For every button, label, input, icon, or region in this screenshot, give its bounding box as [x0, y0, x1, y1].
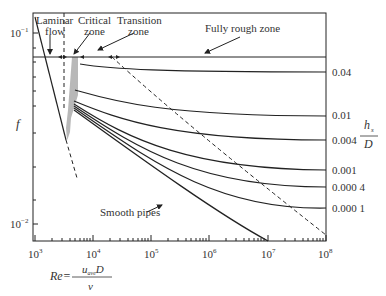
roughness-ratio-label: h s D [360, 118, 378, 151]
label-0.01: 0.01 [332, 109, 351, 121]
annotation-transition-2: zone [128, 25, 149, 37]
svg-text:s: s [371, 126, 374, 134]
curve-0.01 [75, 90, 326, 116]
annotation-smooth-pipes: Smooth pipes [100, 206, 160, 218]
annotation-critical-2: zone [84, 25, 105, 37]
x-tick-1e6: 106 [202, 247, 217, 260]
laminar-extension [66, 140, 77, 178]
x-axis-ticks [35, 235, 326, 241]
label-0.001: 0.001 [332, 164, 357, 176]
moody-diagram: 10−1 10−2 103 104 105 106 107 108 f Re= … [0, 0, 386, 296]
y-tick-0.1: 10−1 [10, 26, 29, 39]
critical-zone-band [66, 57, 78, 140]
label-0.0001: 0.000 1 [332, 202, 365, 214]
x-tick-1e5: 105 [144, 247, 159, 260]
x-axis-label: Re= uaveD ν [49, 263, 112, 292]
label-0.0004: 0.000 4 [332, 181, 366, 193]
svg-text:D: D [363, 137, 373, 151]
x-tick-1e7: 107 [261, 247, 276, 260]
curve-0.0004 [74, 106, 326, 187]
y-tick-0.01: 10−2 [10, 217, 29, 230]
svg-text:h: h [364, 118, 370, 132]
x-tick-1e3: 103 [28, 247, 43, 260]
svg-text:ν: ν [88, 280, 93, 292]
plot-frame [33, 13, 326, 241]
svg-text:Re=: Re= [49, 269, 71, 283]
x-tick-1e4: 104 [86, 247, 101, 260]
x-tick-1e8: 108 [318, 247, 333, 260]
annotation-fully-rough: Fully rough zone [205, 22, 280, 34]
y-axis-label: f [16, 116, 22, 131]
svg-text:uaveD: uaveD [82, 263, 104, 276]
arrow-fully-rough [205, 37, 240, 53]
curve-0.04 [80, 64, 326, 72]
annotation-laminar-2: flow [45, 25, 65, 37]
y-axis-ticks [33, 33, 38, 224]
label-0.004: 0.004 [332, 134, 357, 146]
label-0.04: 0.04 [332, 66, 352, 78]
